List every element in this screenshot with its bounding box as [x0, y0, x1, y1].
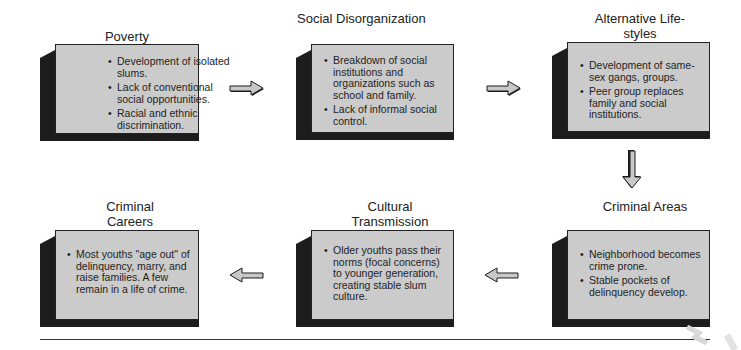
- stage-box-criminal-careers: Most youths "age out" of delinquency, ma…: [40, 230, 199, 327]
- arrow-down-icon: [621, 148, 643, 190]
- box-shadow-side: [552, 48, 567, 139]
- bullet-item: Most youths "age out" of delinquency, ma…: [67, 249, 193, 295]
- arrow-right-icon: [485, 80, 523, 98]
- stage-box-alternative-life-styles: Development of same-sex gangs, groups. P…: [552, 42, 710, 139]
- bullet-item: Development of same-sex gangs, groups.: [580, 60, 704, 83]
- stage-box-poverty: Development of isolated slums. Lack of c…: [40, 44, 199, 141]
- stage-title-criminal-areas: Criminal Areas: [600, 199, 690, 214]
- bullet-item: Older youths pass their norms (focal con…: [324, 245, 444, 303]
- bullet-list: Development of same-sex gangs, groups. P…: [580, 60, 704, 124]
- bullet-item: Lack of conventional social opportunitie…: [108, 82, 230, 105]
- box-shadow-side: [552, 236, 567, 327]
- bullet-list: Most youths "age out" of delinquency, ma…: [67, 249, 193, 298]
- arrow-right-icon: [228, 80, 266, 98]
- bullet-item: Lack of informal social control.: [324, 104, 442, 127]
- stage-box-social-disorganization: Breakdown of social institutions and org…: [296, 44, 454, 140]
- bullet-list: Neighborhood becomes crime prone. Stable…: [580, 249, 704, 301]
- decorative-mark-icon: [685, 325, 741, 350]
- box-shadow-bottom: [296, 132, 454, 140]
- title-text: Social Disorganization: [297, 11, 426, 26]
- bullet-item: Peer group replaces family and social in…: [580, 86, 704, 121]
- stage-title-criminal-careers: Criminal Careers: [85, 199, 175, 229]
- stage-title-cultural-transmission: Cultural Transmission: [340, 199, 440, 229]
- stage-title-social-disorganization: Social Disorganization: [291, 11, 457, 26]
- bullet-item: Development of isolated slums.: [108, 56, 230, 79]
- box-shadow-bottom: [296, 319, 454, 327]
- stage-title-poverty: Poverty: [55, 29, 199, 44]
- box-shadow-side: [296, 50, 311, 140]
- box-shadow-bottom: [552, 131, 710, 139]
- stage-title-alternative-life-styles: Alternative Life-styles: [590, 11, 690, 41]
- horizontal-divider: [40, 339, 710, 340]
- arrow-left-icon: [229, 267, 265, 285]
- stage-box-criminal-areas: Neighborhood becomes crime prone. Stable…: [552, 230, 710, 327]
- box-shadow-side: [296, 236, 311, 327]
- bullet-item: Stable pockets of delinquency develop.: [580, 275, 704, 298]
- bullet-item: Neighborhood becomes crime prone.: [580, 249, 704, 272]
- box-shadow-side: [40, 50, 55, 141]
- bullet-item: Racial and ethnic discrimination.: [108, 108, 230, 131]
- box-shadow-bottom: [40, 133, 199, 141]
- stage-box-cultural-transmission: Older youths pass their norms (focal con…: [296, 230, 454, 327]
- bullet-item: Breakdown of social institutions and org…: [324, 55, 442, 101]
- bullet-list: Breakdown of social institutions and org…: [324, 55, 442, 130]
- bullet-list: Older youths pass their norms (focal con…: [324, 245, 444, 306]
- box-shadow-side: [40, 236, 55, 327]
- box-shadow-bottom: [40, 319, 199, 327]
- bullet-list: Development of isolated slums. Lack of c…: [108, 56, 230, 134]
- arrow-left-icon: [484, 267, 520, 285]
